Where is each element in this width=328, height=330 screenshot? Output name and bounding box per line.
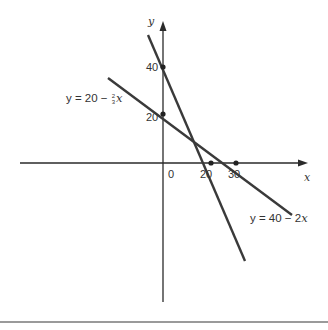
x-tick-20: 20 [200,169,212,180]
equation-line2-var: x [116,91,123,105]
x-axis-arrow-icon [298,160,308,167]
diagram-canvas [0,0,328,330]
fraction-two-thirds: 23 [112,93,115,105]
y-tick-20: 20 [146,112,158,123]
x-tick-30: 30 [228,169,240,180]
line-y-20-minus-two-thirds-x [108,78,292,215]
bottom-rule-divider [0,321,328,323]
equation-line1-var: x [301,211,308,225]
point-30-0 [233,160,238,165]
origin-label: 0 [168,169,174,180]
equation-label-line1: y = 40 − 2x [250,213,308,225]
y-axis-arrow-icon [160,21,167,31]
equation-label-line2: y = 20 − 23x [66,93,123,105]
y-axis-label: y [148,16,154,27]
y-tick-40: 40 [146,62,158,73]
equation-line2-prefix: y = 20 − [66,92,111,104]
linear-equations-diagram: y x 40 20 0 20 30 y = 20 − 23x y = 40 − … [0,0,328,330]
point-0-40 [160,64,165,69]
equation-line1-prefix: y = 40 − 2 [250,212,301,224]
point-20-0 [208,160,213,165]
x-axis-label: x [304,172,310,183]
point-0-20 [160,111,165,116]
